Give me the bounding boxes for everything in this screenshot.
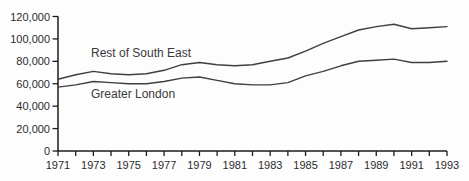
y-axis-tick-label: 120,000 <box>10 11 50 23</box>
x-axis-tick-label: 1977 <box>152 159 176 171</box>
y-axis-tick-label: 80,000 <box>16 55 50 67</box>
line-chart: 020,00040,00060,00080,000100,000120,0001… <box>0 0 469 181</box>
y-axis-tick-label: 0 <box>44 145 50 157</box>
x-axis-tick-label: 1971 <box>46 159 70 171</box>
x-axis-tick-label: 1985 <box>293 159 317 171</box>
plot-svg: 020,00040,00060,00080,000100,000120,0001… <box>0 0 469 181</box>
series-line-greater-london <box>58 59 447 87</box>
x-axis-tick-label: 1993 <box>435 159 459 171</box>
x-axis-tick-label: 1987 <box>329 159 353 171</box>
x-axis-tick-label: 1983 <box>258 159 282 171</box>
x-axis-tick-label: 1973 <box>81 159 105 171</box>
series-label-greater-london: Greater London <box>91 88 175 100</box>
y-axis-tick-label: 40,000 <box>16 100 50 112</box>
y-axis-tick-label: 100,000 <box>10 33 50 45</box>
y-axis-tick-label: 20,000 <box>16 123 50 135</box>
y-axis-tick-label: 60,000 <box>16 78 50 90</box>
x-axis-tick-label: 1975 <box>116 159 140 171</box>
x-axis-tick-label: 1979 <box>187 159 211 171</box>
series-label-rest-of-south-east: Rest of South East <box>91 47 191 59</box>
x-axis-tick-label: 1989 <box>364 159 388 171</box>
x-axis-tick-label: 1981 <box>223 159 247 171</box>
axes <box>58 17 447 152</box>
x-axis-tick-label: 1991 <box>399 159 423 171</box>
